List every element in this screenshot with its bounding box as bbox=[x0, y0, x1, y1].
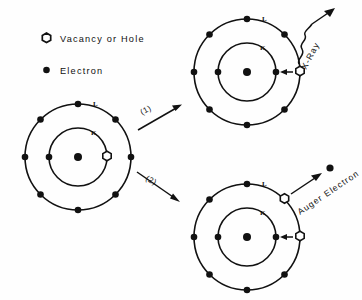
auger-atom-l-label: L bbox=[262, 180, 267, 188]
initial-atom-nucleus bbox=[74, 153, 82, 161]
electron-dot bbox=[22, 154, 29, 161]
electron-dot bbox=[128, 154, 135, 161]
auger-electron-label: Auger Electron bbox=[296, 168, 361, 217]
x-ray-emission: X-Ray bbox=[298, 8, 335, 71]
diagram-canvas: Vacancy or Hole Electron bbox=[0, 0, 362, 300]
x-ray-atom-l-label: L bbox=[262, 15, 267, 23]
x-ray-atom-k-label: K bbox=[260, 44, 266, 52]
electron-dot bbox=[206, 106, 213, 113]
vacancy-hexagon bbox=[103, 151, 111, 161]
electron-dot bbox=[206, 196, 213, 203]
electron-dot bbox=[244, 122, 251, 129]
electron-dot bbox=[244, 181, 251, 188]
atomic-relaxation-diagram: Vacancy or Hole Electron bbox=[0, 0, 362, 300]
legend-label-vacancy: Vacancy or Hole bbox=[60, 34, 145, 44]
electron-dot bbox=[206, 31, 213, 38]
electron-dot bbox=[46, 154, 53, 161]
electron-dot bbox=[37, 191, 44, 198]
electron-dot bbox=[273, 234, 280, 241]
hexagon-outline-icon bbox=[42, 33, 50, 43]
electron-dot bbox=[191, 69, 198, 76]
auger-atom-k-label: K bbox=[260, 209, 266, 217]
auger-infall-arrowhead bbox=[280, 234, 287, 240]
transition-2-arrowhead bbox=[170, 194, 180, 203]
x-ray-arrowhead bbox=[324, 8, 335, 17]
electron-dot bbox=[37, 116, 44, 123]
x-ray-infall-arrowhead bbox=[280, 69, 287, 75]
transition-2-line bbox=[137, 172, 176, 199]
legend-label-electron: Electron bbox=[60, 66, 103, 76]
x-ray-atom: L K bbox=[191, 15, 305, 128]
initial-atom-k-label: K bbox=[91, 129, 97, 137]
electron-dot bbox=[281, 31, 288, 38]
vacancy-hexagon bbox=[280, 194, 288, 204]
transition-arrow-2: (2) bbox=[137, 172, 180, 202]
initial-atom-l-label: L bbox=[93, 100, 98, 108]
electron-dot bbox=[281, 106, 288, 113]
electron-dot bbox=[112, 116, 119, 123]
initial-atom: L K bbox=[22, 100, 135, 213]
electron-dot bbox=[215, 234, 222, 241]
vacancy-hexagon bbox=[296, 231, 304, 241]
electron-dot bbox=[244, 16, 251, 23]
electron-dot bbox=[206, 271, 213, 278]
electron-dot bbox=[281, 271, 288, 278]
electron-dot bbox=[75, 101, 82, 108]
filled-dot-icon bbox=[43, 67, 50, 74]
x-ray-atom-nucleus bbox=[243, 68, 251, 76]
electron-dot bbox=[112, 191, 119, 198]
electron-dot bbox=[244, 287, 251, 294]
electron-dot bbox=[75, 207, 82, 214]
auger-atom: L K bbox=[191, 180, 305, 293]
auger-atom-nucleus bbox=[243, 233, 251, 241]
electron-dot bbox=[273, 69, 280, 76]
legend-item-vacancy: Vacancy or Hole bbox=[42, 33, 144, 44]
electron-dot bbox=[191, 234, 198, 241]
transition-1-label: (1) bbox=[139, 104, 153, 117]
transition-arrow-1: (1) bbox=[138, 104, 182, 130]
electron-dot bbox=[215, 69, 222, 76]
auger-emission: Auger Electron bbox=[291, 164, 361, 216]
legend-item-electron: Electron bbox=[43, 66, 103, 76]
legend: Vacancy or Hole Electron bbox=[42, 33, 144, 76]
ejected-electron-dot bbox=[326, 164, 333, 171]
